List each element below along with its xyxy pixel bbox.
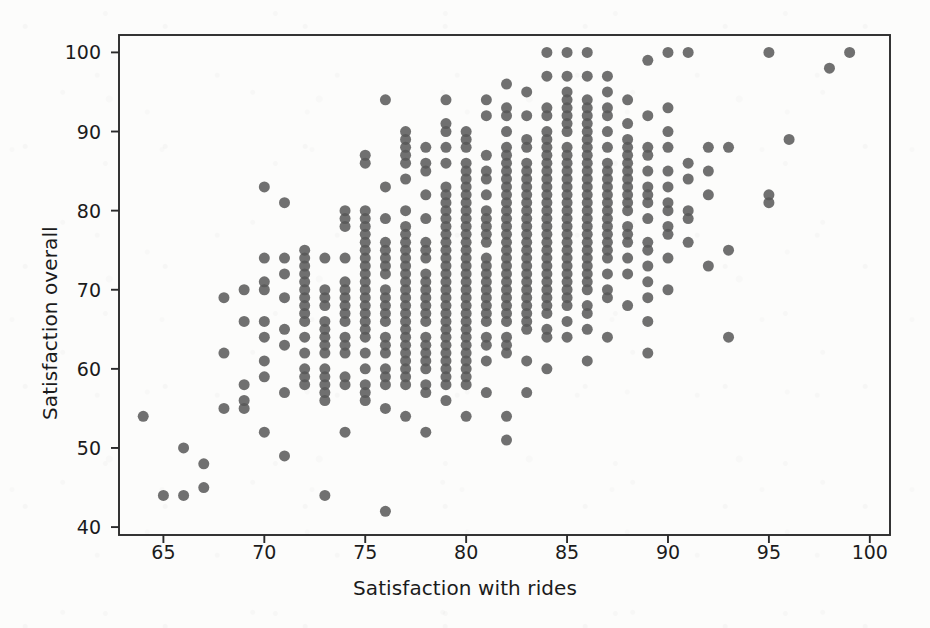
data-point (844, 47, 855, 58)
data-point (562, 316, 573, 327)
data-point (400, 205, 411, 216)
data-point (622, 268, 633, 279)
data-point (501, 411, 512, 422)
data-point (481, 253, 492, 264)
data-point (562, 142, 573, 153)
data-point (360, 150, 371, 161)
data-point (602, 284, 613, 295)
data-point (622, 253, 633, 264)
data-point (703, 142, 714, 153)
data-point (662, 221, 673, 232)
data-point (582, 300, 593, 311)
data-point (683, 237, 694, 248)
x-tick-label: 85 (555, 541, 579, 563)
data-point (481, 355, 492, 366)
data-point (541, 363, 552, 374)
data-point (602, 86, 613, 97)
data-point (662, 102, 673, 113)
data-point (340, 371, 351, 382)
data-point (178, 442, 189, 453)
data-point (239, 395, 250, 406)
data-point (380, 332, 391, 343)
data-point (481, 150, 492, 161)
data-point (763, 47, 774, 58)
data-point (662, 181, 673, 192)
data-point (642, 55, 653, 66)
y-tick-label: 80 (55, 200, 101, 222)
data-point (602, 158, 613, 169)
data-point (481, 387, 492, 398)
data-point (299, 363, 310, 374)
data-point-group (138, 47, 855, 517)
data-point (440, 395, 451, 406)
data-point (420, 268, 431, 279)
data-point (602, 268, 613, 279)
data-point (642, 237, 653, 248)
data-point (319, 284, 330, 295)
data-point (440, 94, 451, 105)
plot-canvas (0, 0, 930, 628)
data-point (198, 458, 209, 469)
data-point (420, 237, 431, 248)
data-point (521, 158, 532, 169)
data-point (622, 221, 633, 232)
data-point (481, 189, 492, 200)
data-point (703, 166, 714, 177)
data-point (683, 173, 694, 184)
data-point (319, 316, 330, 327)
data-point (218, 348, 229, 359)
data-point (642, 316, 653, 327)
data-point (259, 276, 270, 287)
data-point (481, 332, 492, 343)
data-point (602, 332, 613, 343)
data-point (420, 158, 431, 169)
data-point (380, 213, 391, 224)
data-point (501, 126, 512, 137)
data-point (784, 134, 795, 145)
data-point (440, 158, 451, 169)
data-point (360, 363, 371, 374)
data-point (541, 47, 552, 58)
data-point (360, 379, 371, 390)
data-point (501, 79, 512, 90)
data-point (582, 355, 593, 366)
data-point (239, 316, 250, 327)
data-point (521, 86, 532, 97)
data-point (279, 268, 290, 279)
data-point (440, 142, 451, 153)
x-axis-label: Satisfaction with rides (0, 576, 930, 600)
data-point (602, 102, 613, 113)
x-tick-label: 80 (454, 541, 478, 563)
data-point (521, 134, 532, 145)
data-point (642, 110, 653, 121)
data-point (279, 253, 290, 264)
data-point (662, 284, 673, 295)
data-point (340, 205, 351, 216)
x-tick-label: 90 (656, 541, 680, 563)
data-point (642, 181, 653, 192)
data-point (279, 197, 290, 208)
data-point (380, 506, 391, 517)
data-point (218, 292, 229, 303)
data-point (360, 348, 371, 359)
data-point (541, 102, 552, 113)
data-point (662, 47, 673, 58)
data-point (420, 142, 431, 153)
data-point (582, 71, 593, 82)
data-point (461, 411, 472, 422)
data-point (642, 348, 653, 359)
data-point (562, 332, 573, 343)
y-tick-label: 90 (55, 121, 101, 143)
data-point (481, 205, 492, 216)
data-point (218, 403, 229, 414)
data-point (420, 332, 431, 343)
data-point (340, 276, 351, 287)
data-point (582, 94, 593, 105)
y-tick-label: 100 (55, 41, 101, 63)
data-point (340, 427, 351, 438)
data-point (481, 166, 492, 177)
data-point (259, 316, 270, 327)
data-point (400, 126, 411, 137)
data-point (259, 253, 270, 264)
x-tick-label: 100 (852, 541, 888, 563)
